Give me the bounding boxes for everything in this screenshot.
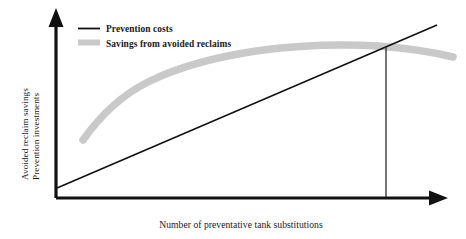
y-axis-label-line1: Avoided reclaim savings: [20, 88, 30, 180]
legend-swatch-band-icon: [78, 40, 100, 46]
chart-legend: Prevention costs Savings from avoided re…: [78, 24, 231, 49]
x-axis-label: Number of preventative tank substitution…: [159, 219, 323, 230]
legend-label-prevention-costs: Prevention costs: [106, 24, 173, 34]
y-axis-label: Avoided reclaim savings Prevention inves…: [20, 88, 41, 180]
legend-item-prevention-costs: Prevention costs: [78, 24, 173, 34]
chart-figure: Prevention costs Savings from avoided re…: [0, 0, 466, 239]
legend-label-savings-from-avoided-reclaims: Savings from avoided reclaims: [106, 39, 231, 49]
chart-canvas: Prevention costs Savings from avoided re…: [0, 0, 466, 239]
y-axis-arrow-icon: [49, 8, 64, 27]
y-axis-label-line2: Prevention investments: [31, 93, 41, 180]
series-savings-from-avoided-reclaims: [83, 45, 453, 140]
x-axis-arrow-icon: [429, 191, 448, 206]
legend-item-savings-from-avoided-reclaims: Savings from avoided reclaims: [78, 39, 231, 49]
